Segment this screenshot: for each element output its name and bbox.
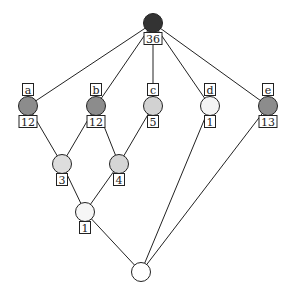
- edge-d-bottom: [141, 106, 210, 272]
- node-circle: [110, 155, 129, 174]
- node-e: e13: [259, 84, 278, 129]
- attribute-label: d: [206, 84, 213, 97]
- node-bottom: [132, 263, 151, 282]
- count-label: 13: [261, 116, 275, 129]
- nodes: 36a12b12c5d1e13341: [19, 14, 278, 282]
- count-label: 3: [59, 174, 66, 187]
- edge-e-bottom: [141, 106, 268, 272]
- node-c: c5: [144, 84, 163, 129]
- edge-n1-bottom: [85, 212, 141, 272]
- count-label: 36: [146, 33, 160, 46]
- node-n4: 4: [110, 155, 129, 187]
- node-circle: [201, 97, 220, 116]
- attribute-label: c: [150, 84, 156, 97]
- node-a: a12: [19, 84, 38, 129]
- node-circle: [19, 97, 38, 116]
- node-circle: [144, 97, 163, 116]
- node-circle: [87, 97, 106, 116]
- edges: [28, 23, 268, 272]
- attribute-label: a: [25, 84, 32, 97]
- node-circle: [53, 155, 72, 174]
- count-label: 4: [116, 174, 123, 187]
- node-top: 36: [144, 14, 163, 46]
- node-circle: [76, 203, 95, 222]
- count-label: 1: [207, 116, 214, 129]
- node-circle: [132, 263, 151, 282]
- count-label: 1: [82, 222, 89, 235]
- concept-lattice-diagram: 36a12b12c5d1e13341: [0, 0, 289, 294]
- count-label: 12: [21, 116, 35, 129]
- node-n1: 1: [76, 203, 95, 235]
- edge-c-n4: [119, 106, 153, 164]
- node-b: b12: [87, 84, 106, 129]
- node-n3: 3: [53, 155, 72, 187]
- attribute-label: e: [265, 84, 272, 97]
- attribute-label: b: [92, 84, 99, 97]
- count-label: 5: [150, 116, 157, 129]
- node-circle: [259, 97, 278, 116]
- count-label: 12: [89, 116, 103, 129]
- node-circle: [144, 14, 163, 33]
